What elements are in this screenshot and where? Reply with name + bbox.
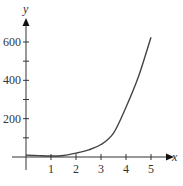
data-curve	[26, 37, 151, 156]
series-line	[26, 37, 151, 156]
x-axis-label: x	[171, 150, 178, 164]
x-tick-label: 4	[123, 162, 129, 176]
x-tick-label: 1	[48, 162, 54, 176]
y-tick-label: 600	[3, 35, 21, 49]
y-tick-label: 200	[3, 112, 21, 126]
x-tick-label: 3	[98, 162, 104, 176]
y-tick-label: 400	[3, 73, 21, 87]
chart: x y 12345200400600	[0, 0, 183, 186]
y-axis-label: y	[22, 2, 29, 16]
axes: x y	[12, 2, 178, 170]
x-tick-label: 2	[73, 162, 79, 176]
x-tick-label: 5	[148, 162, 154, 176]
y-axis-arrow-icon	[23, 18, 30, 26]
